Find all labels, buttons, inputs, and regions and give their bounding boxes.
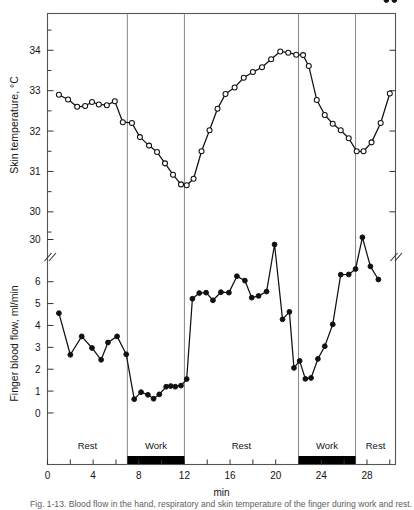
temperature-data-point <box>286 50 291 55</box>
temperature-data-point <box>163 161 168 166</box>
x-tick-label: 20 <box>270 470 282 481</box>
temperature-data-point <box>112 99 117 104</box>
blood-flow-data-point <box>368 264 373 269</box>
blood-flow-line <box>59 237 378 399</box>
phase-label-work: Work <box>316 440 338 451</box>
blood-flow-data-point <box>184 377 189 382</box>
y-tick-label-flow: 5 <box>35 298 41 309</box>
blood-flow-data-point <box>106 340 111 345</box>
temperature-data-point <box>56 92 61 97</box>
blood-flow-data-point <box>338 272 343 277</box>
y-tick-label-temp: 33 <box>29 85 41 96</box>
temperature-data-point <box>354 149 359 154</box>
temperature-data-point <box>346 136 351 141</box>
blood-flow-data-point <box>384 0 389 2</box>
temperature-data-point <box>147 143 152 148</box>
x-tick-label: 4 <box>90 470 96 481</box>
temperature-data-point <box>260 65 265 70</box>
x-tick-label: 24 <box>316 470 328 481</box>
y-tick-label-temp: 34 <box>29 45 41 56</box>
blood-flow-data-point <box>303 376 308 381</box>
blood-flow-data-point <box>168 384 173 389</box>
temperature-data-point <box>171 172 176 177</box>
temperature-data-point <box>83 104 88 109</box>
temperature-data-point <box>129 120 134 125</box>
blood-flow-data-point <box>190 296 195 301</box>
phase-label-work: Work <box>145 440 167 451</box>
blood-flow-data-point <box>360 235 365 240</box>
blood-flow-data-point <box>157 392 162 397</box>
temperature-data-point <box>250 70 255 75</box>
phase-label-rest: Rest <box>232 440 252 451</box>
phase-label-rest: Rest <box>78 440 98 451</box>
blood-flow-data-point <box>173 384 178 389</box>
blood-flow-data-point <box>272 242 277 247</box>
blood-flow-data-point <box>264 289 269 294</box>
blood-flow-data-point <box>164 384 169 389</box>
temperature-data-point <box>241 75 246 80</box>
temperature-data-point <box>314 97 319 102</box>
blood-flow-data-point <box>211 298 216 303</box>
temperature-data-point <box>387 91 392 96</box>
y-tick-label-flow: 6 <box>35 276 41 287</box>
x-tick-label: 12 <box>179 470 191 481</box>
y-tick-label-temp: 31 <box>29 166 41 177</box>
temperature-line <box>59 51 390 185</box>
blood-flow-data-point <box>256 294 261 299</box>
blood-flow-data-point <box>68 352 73 357</box>
y-tick-label-flow: 1 <box>35 386 41 397</box>
blood-flow-data-point <box>322 344 327 349</box>
blood-flow-data-point <box>280 317 285 322</box>
x-tick-label: 28 <box>361 470 373 481</box>
temperature-data-point <box>338 128 343 133</box>
temperature-data-point <box>223 91 228 96</box>
temperature-data-point <box>120 120 125 125</box>
blood-flow-data-point <box>292 366 297 371</box>
temperature-data-point <box>301 53 306 58</box>
blood-flow-data-point <box>219 290 224 295</box>
temperature-data-point <box>137 135 142 140</box>
blood-flow-data-point <box>146 392 151 397</box>
temperature-data-point <box>322 112 327 117</box>
temperature-data-point <box>278 49 283 54</box>
temperature-data-point <box>184 183 189 188</box>
blood-flow-data-point <box>124 352 129 357</box>
temperature-data-point <box>66 97 71 102</box>
blood-flow-data-point <box>297 358 302 363</box>
temperature-data-point <box>215 106 220 111</box>
temperature-data-point <box>75 104 80 109</box>
figure-caption: Fig. 1-13. Blood flow in the hand, respi… <box>30 499 412 509</box>
blood-flow-data-point <box>309 376 314 381</box>
y-tick-label-temp: 30 <box>29 206 41 217</box>
y-tick-label-flow: 3 <box>35 342 41 353</box>
temperature-data-point <box>232 85 237 90</box>
temperature-data-point <box>90 99 95 104</box>
temperature-data-point <box>361 149 366 154</box>
blood-flow-data-point <box>346 272 351 277</box>
work-period-bar <box>299 456 356 464</box>
y-tick-label-flow: 2 <box>35 364 41 375</box>
y-tick-label-flow: 4 <box>35 320 41 331</box>
temperature-data-point <box>191 176 196 181</box>
y-tick-label-temp: 32 <box>29 126 41 137</box>
y-axis-label-temp: Skin temperature, °C <box>8 76 20 174</box>
blood-flow-data-point <box>115 334 120 339</box>
temperature-data-point <box>369 140 374 145</box>
blood-flow-data-point <box>57 311 62 316</box>
plot-frame <box>48 14 396 465</box>
temperature-data-point <box>155 150 160 155</box>
x-axis-label: min <box>213 487 229 498</box>
blood-flow-data-point <box>139 390 144 395</box>
blood-flow-data-point <box>227 290 232 295</box>
blood-flow-data-point <box>353 267 358 272</box>
temperature-data-point <box>207 128 212 133</box>
blood-flow-data-point <box>90 346 95 351</box>
blood-flow-data-point <box>235 274 240 279</box>
blood-flow-data-point <box>316 357 321 362</box>
blood-flow-data-point <box>204 290 209 295</box>
temperature-data-point <box>378 120 383 125</box>
temperature-data-point <box>294 52 299 57</box>
y-tick-label-flow-upper: 30 <box>29 234 41 245</box>
temperature-data-point <box>330 121 335 126</box>
